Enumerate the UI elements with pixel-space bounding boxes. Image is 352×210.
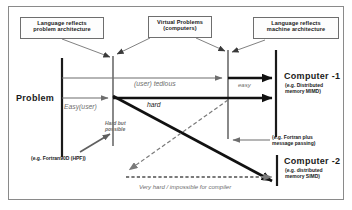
label-easy-user: Easy(user) [64, 103, 97, 110]
label-easy: easy [238, 82, 251, 88]
arrow-hard-but-possible [113, 96, 272, 181]
box-virtual-problems-line2: (computers) [151, 25, 209, 31]
leader-virtual-right [196, 38, 225, 51]
box-virtual-problems: Virtual Problems (computers) [148, 16, 212, 38]
leader-machine-architecture [232, 40, 265, 52]
box-problem-architecture-line2: problem architecture [23, 26, 101, 32]
leader-problem-architecture [62, 39, 110, 57]
diagonal-arrows [113, 96, 272, 181]
label-hard: hard [147, 101, 161, 108]
leader-virtual-left [117, 38, 150, 54]
label-computer-1-title: Computer -1 [284, 71, 340, 81]
label-computer-1-note-line2: memory MIMD) [285, 88, 321, 94]
label-very-hard: Very hard / impossible for compiler [139, 184, 231, 190]
box-problem-architecture: Language reflects problem architecture [20, 17, 104, 39]
pointer-fortran90d [80, 134, 110, 152]
annotation-pointers [80, 134, 270, 152]
label-user-tedious: (user) tedious [134, 80, 176, 87]
annotation-fortran-plus-line2: message passing) [272, 140, 315, 146]
label-problem: Problem [16, 93, 54, 103]
figure-root: Language reflects problem architecture V… [0, 0, 352, 210]
arrow-very-hard-diagonal [129, 100, 228, 170]
label-computer-2-title: Computer -2 [284, 156, 340, 166]
label-computer-2-note-line2: memory SIMD) [285, 173, 320, 179]
box-machine-architecture-line2: machine architecture [256, 26, 336, 32]
box-leader-lines [62, 38, 265, 57]
box-machine-architecture: Language reflects machine architecture [253, 17, 339, 39]
label-hard-but-possible-line2: possible [105, 126, 125, 132]
annotation-fortran90d: (e.g. Fortran90D (HPF)) [31, 155, 86, 161]
